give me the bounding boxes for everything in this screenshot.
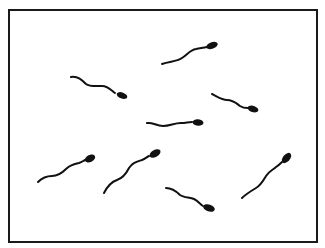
tail-icon [212, 94, 248, 108]
tail-icon [147, 122, 192, 126]
head-icon [202, 203, 216, 213]
sperm-cell-lower-left [38, 153, 96, 182]
head-icon [148, 147, 162, 159]
tail-icon [166, 188, 203, 206]
head-icon [84, 153, 97, 164]
head-icon [205, 40, 218, 50]
tail-icon [71, 77, 115, 93]
sperm-cell-top-center [162, 40, 219, 64]
sperm-cell-lower-right [242, 151, 293, 198]
tail-icon [38, 160, 85, 182]
sperm-cell-center [147, 119, 204, 126]
sperm-cell-upper-left [71, 77, 128, 100]
sperm-cells-illustration [0, 0, 325, 248]
head-icon [247, 104, 259, 113]
tail-icon [104, 156, 149, 193]
sperm-cell-upper-right [212, 94, 259, 114]
tail-icon [162, 47, 207, 64]
tail-icon [242, 162, 282, 198]
head-icon [192, 119, 204, 126]
head-icon [116, 91, 128, 100]
sperm-cell-bottom-center [166, 188, 216, 213]
sperm-cell-lower-center-left [104, 147, 162, 193]
